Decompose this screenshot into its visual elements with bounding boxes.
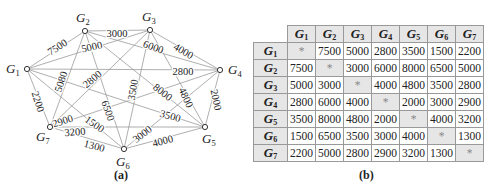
- edge-weight-label: 3500: [159, 108, 182, 124]
- table-body: G1*750050002800350015002200G27500*300060…: [254, 43, 484, 162]
- column-header: G4: [372, 26, 400, 43]
- distance-cell: 5000: [344, 43, 372, 60]
- edge-weight-label: 6500: [99, 99, 117, 122]
- distance-cell: 8000: [400, 60, 428, 77]
- diagonal-cell: *: [316, 60, 344, 77]
- distance-cell: 2800: [344, 145, 372, 162]
- column-header: G2: [316, 26, 344, 43]
- distance-cell: 6500: [428, 60, 456, 77]
- edge-weight-label: 5000: [80, 39, 103, 54]
- diagonal-cell: *: [428, 128, 456, 145]
- distance-cell: 4800: [400, 77, 428, 94]
- distance-cell: 1500: [428, 43, 456, 60]
- distance-cell: 6000: [316, 94, 344, 111]
- distance-cell: 2900: [456, 94, 484, 111]
- distance-cell: 1300: [428, 145, 456, 162]
- row-header: G3: [254, 77, 288, 94]
- distance-cell: 2800: [372, 43, 400, 60]
- distance-cell: 3200: [400, 145, 428, 162]
- distance-cell: 3500: [428, 77, 456, 94]
- diagonal-cell: *: [456, 145, 484, 162]
- edge-weight-label: 7500: [46, 37, 70, 58]
- distance-matrix-table: G1G2G3G4G5G6G7 G1*7500500028003500150022…: [253, 25, 484, 162]
- distance-cell: 2000: [400, 94, 428, 111]
- distance-cell: 3000: [372, 128, 400, 145]
- edge-weight-label: 2800: [81, 68, 104, 90]
- distance-cell: 6000: [372, 60, 400, 77]
- node-label: G2: [76, 10, 90, 27]
- distance-cell: 2900: [372, 145, 400, 162]
- edge-weight-label: 4800: [177, 86, 196, 110]
- edge-weight-label: 3000: [107, 28, 128, 39]
- distance-cell: 2200: [288, 145, 316, 162]
- table-row: G615006500350030004000*1300: [254, 128, 484, 145]
- graph-node-G3: [147, 27, 152, 32]
- table-row: G53500800048002000*40003200: [254, 111, 484, 128]
- table-caption: (b): [359, 168, 374, 183]
- graph-node-G2: [82, 28, 87, 33]
- edge-weight-label: 2000: [209, 88, 224, 111]
- node-label: G5: [202, 131, 216, 148]
- edge-weight-label: 2200: [30, 90, 47, 113]
- diagonal-cell: *: [288, 43, 316, 60]
- table-row: G350003000*4000480035002800: [254, 77, 484, 94]
- graph-node-G4: [217, 67, 222, 72]
- row-header: G4: [254, 94, 288, 111]
- distance-cell: 5000: [456, 60, 484, 77]
- table-row: G1*750050002800350015002200: [254, 43, 484, 60]
- distance-cell: 8000: [316, 111, 344, 128]
- graph-node-G1: [24, 66, 29, 71]
- diagonal-cell: *: [400, 111, 428, 128]
- edge-weight-label: 2800: [173, 66, 194, 77]
- graph-node-G7: [47, 124, 52, 129]
- distance-cell: 7500: [288, 60, 316, 77]
- node-label: G4: [228, 62, 242, 79]
- graph-caption: (a): [114, 168, 128, 183]
- table-row: G4280060004000*200030002900: [254, 94, 484, 111]
- diagonal-cell: *: [372, 94, 400, 111]
- distance-cell: 3000: [428, 94, 456, 111]
- row-header: G1: [254, 43, 288, 60]
- distance-cell: 4000: [372, 77, 400, 94]
- table-row: G7220050002800290032001300*: [254, 145, 484, 162]
- distance-cell: 3000: [316, 77, 344, 94]
- column-header: G6: [428, 26, 456, 43]
- distance-cell: 3200: [456, 111, 484, 128]
- table-row: G27500*30006000800065005000: [254, 60, 484, 77]
- edge-weight-label: 4000: [172, 41, 196, 61]
- graph-node-G6: [121, 146, 126, 151]
- distance-cell: 2200: [456, 43, 484, 60]
- distance-cell: 5000: [288, 77, 316, 94]
- distance-cell: 4000: [400, 128, 428, 145]
- graph-node-G5: [202, 124, 207, 129]
- diagonal-cell: *: [344, 77, 372, 94]
- row-header: G2: [254, 60, 288, 77]
- distance-cell: 1300: [456, 128, 484, 145]
- column-header: G5: [400, 26, 428, 43]
- row-header: G7: [254, 145, 288, 162]
- edge-weight-label: 3200: [64, 126, 86, 139]
- column-header: G7: [456, 26, 484, 43]
- row-header: G5: [254, 111, 288, 128]
- distance-cell: 3500: [400, 43, 428, 60]
- distance-cell: 4000: [344, 94, 372, 111]
- distance-cell: 4800: [344, 111, 372, 128]
- edge-weight-label: 4000: [151, 133, 174, 149]
- node-label: G7: [36, 129, 50, 146]
- edge-weight-label: 1300: [83, 138, 106, 154]
- distance-cell: 1500: [288, 128, 316, 145]
- node-label: G3: [142, 9, 156, 26]
- distance-cell: 5000: [316, 145, 344, 162]
- distance-cell: 2800: [288, 94, 316, 111]
- distance-cell: 2800: [456, 77, 484, 94]
- distance-cell: 4000: [428, 111, 456, 128]
- distance-cell: 3500: [288, 111, 316, 128]
- table-corner-cell: [254, 26, 288, 43]
- distance-cell: 3500: [344, 128, 372, 145]
- row-header: G6: [254, 128, 288, 145]
- column-header: G3: [344, 26, 372, 43]
- distance-cell: 6500: [316, 128, 344, 145]
- distance-cell: 2000: [372, 111, 400, 128]
- weighted-graph: 7500300040002800200040001300220060005000…: [0, 0, 245, 190]
- distance-cell: 7500: [316, 43, 344, 60]
